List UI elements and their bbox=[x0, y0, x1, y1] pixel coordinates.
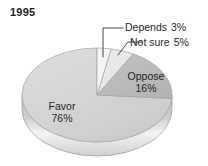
label-depends-pct: 3% bbox=[171, 21, 186, 33]
pie-slices bbox=[22, 48, 172, 142]
slice-label-favor: Favor 76% bbox=[33, 100, 91, 124]
label-favor-pct: 76% bbox=[33, 112, 91, 124]
callout-label-depends: Depends3% bbox=[125, 21, 186, 33]
label-oppose-name: Oppose bbox=[128, 70, 165, 82]
label-not-sure-pct: 5% bbox=[174, 36, 189, 48]
label-oppose-pct: 16% bbox=[118, 82, 174, 94]
label-not-sure-name: Not sure bbox=[130, 36, 170, 48]
label-depends-name: Depends bbox=[125, 21, 167, 33]
label-favor-name: Favor bbox=[49, 100, 76, 112]
slice-label-oppose: Oppose 16% bbox=[118, 70, 174, 94]
callout-label-not-sure: Not sure5% bbox=[130, 36, 189, 48]
pie-chart-figure: 1995 bbox=[0, 0, 208, 166]
